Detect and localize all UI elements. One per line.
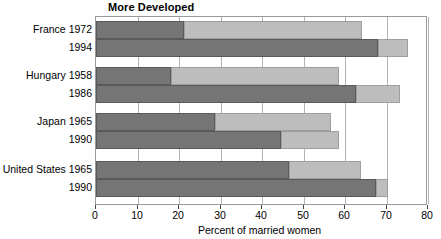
tick-label-0: 0 (80, 209, 110, 221)
bar-row (96, 131, 428, 149)
bar-row (96, 179, 428, 197)
bar-row (96, 113, 428, 131)
chart-title: More Developed (108, 1, 194, 13)
category-label-3: 1986 (69, 84, 92, 102)
bar-segment-traditional (281, 131, 339, 149)
category-label-7: 1990 (69, 178, 92, 196)
bar-segment-modern (96, 131, 281, 149)
tick-label-10: 10 (122, 209, 152, 221)
bar-segment-modern (96, 113, 215, 131)
x-axis-title-text: Percent of married women (120, 224, 321, 236)
category-label-4: Japan 1965 (37, 112, 92, 130)
category-label-2: Hungary 1958 (26, 66, 92, 84)
tick-label-30: 30 (205, 209, 235, 221)
bar-segment-modern (96, 179, 376, 197)
category-label-5: 1990 (69, 130, 92, 148)
bar-segment-modern (96, 85, 356, 103)
category-label-0: France 1972 (33, 20, 92, 38)
bar-segment-traditional (289, 161, 361, 179)
bar-row (96, 39, 428, 57)
bar-row (96, 67, 428, 85)
bar-segment-modern (96, 39, 378, 57)
stacked-bar-chart: More Developed France 19721994Hungary 19… (0, 0, 441, 239)
bar-segment-modern (96, 67, 171, 85)
tick-label-20: 20 (163, 209, 193, 221)
bar-segment-traditional (171, 67, 339, 85)
category-label-1: 1994 (69, 38, 92, 56)
tick-label-40: 40 (246, 209, 276, 221)
tick-label-80: 80 (412, 209, 441, 221)
bar-segment-traditional (184, 21, 362, 39)
x-axis-title: Percent of married women (0, 224, 441, 236)
plot-area (95, 16, 427, 205)
bar-segment-traditional (215, 113, 331, 131)
bar-row (96, 21, 428, 39)
bar-segment-traditional (376, 179, 388, 197)
category-label-6: United States 1965 (3, 160, 92, 178)
bar-segment-traditional (356, 85, 400, 103)
tick-label-60: 60 (329, 209, 359, 221)
tick-label-70: 70 (371, 209, 401, 221)
tick-label-50: 50 (288, 209, 318, 221)
gridline-80 (428, 17, 429, 204)
bar-segment-modern (96, 161, 289, 179)
bar-segment-traditional (378, 39, 408, 57)
bar-row (96, 161, 428, 179)
bar-row (96, 85, 428, 103)
bar-segment-modern (96, 21, 184, 39)
